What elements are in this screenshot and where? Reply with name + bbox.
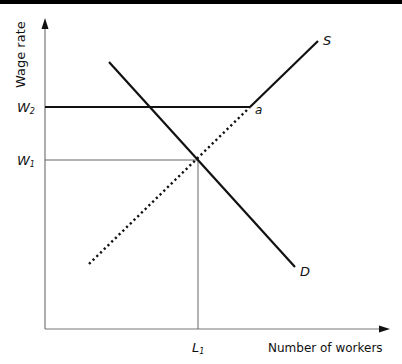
labor-market-diagram: Wage rate W2 W1 L1 a S D Number of worke… xyxy=(0,0,402,364)
demand-curve xyxy=(109,62,295,267)
l1-label: L1 xyxy=(192,340,204,356)
demand-label: D xyxy=(300,264,310,279)
supply-dotted-extension xyxy=(89,107,250,264)
point-a-label: a xyxy=(255,103,262,117)
y-axis-label: Wage rate xyxy=(13,21,28,88)
y-axis-arrow-icon xyxy=(42,18,49,29)
x-axis-arrow-icon xyxy=(379,326,390,333)
supply-label: S xyxy=(323,33,331,48)
supply-curve xyxy=(250,41,318,107)
x-axis-label: Number of workers xyxy=(268,341,383,355)
w1-label: W1 xyxy=(17,153,35,169)
w2-label: W2 xyxy=(17,100,35,116)
